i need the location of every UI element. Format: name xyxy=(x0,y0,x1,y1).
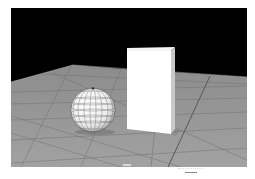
footer-marker xyxy=(185,172,197,173)
viewport-center-marker xyxy=(123,164,131,166)
3d-viewport[interactable] xyxy=(11,8,247,167)
box-object[interactable] xyxy=(127,47,181,136)
scene-render xyxy=(11,8,247,167)
status-dots xyxy=(178,168,204,171)
